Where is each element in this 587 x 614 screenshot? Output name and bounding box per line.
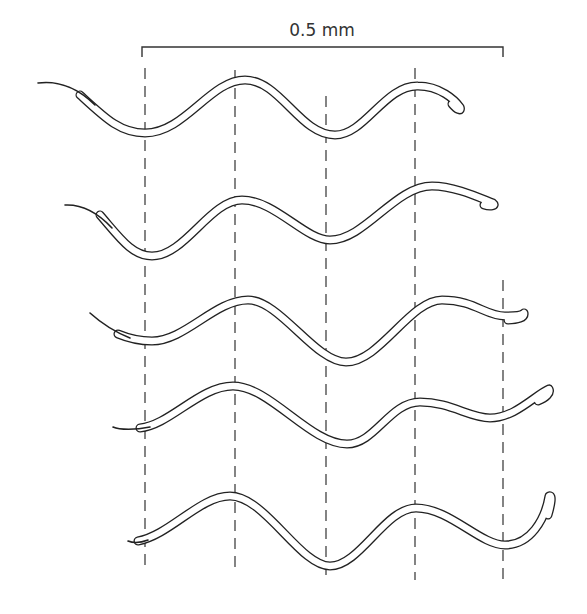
worm-frame-1 [38,80,460,135]
worm-body-fill [118,300,524,362]
worm-frame-3 [90,300,524,362]
worm-frames [38,80,551,566]
scale-bar-line [142,47,503,57]
worm-frame-5 [128,496,551,566]
worm-frame-4 [113,386,549,444]
worm-body-fill [138,496,551,566]
worm-body-outline [100,186,494,256]
worm-body-fill [140,386,549,444]
scale-bar: 0.5 mm [142,20,503,57]
nematode-locomotion-diagram: 0.5 mm [0,0,587,614]
scale-bar-label: 0.5 mm [289,20,355,40]
worm-frame-2 [65,186,494,256]
worm-body-fill [80,80,460,135]
